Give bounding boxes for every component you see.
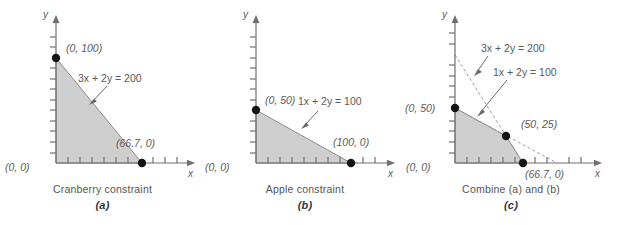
y-axis-label-c: y (441, 9, 448, 20)
x-axis-label-b: x (387, 168, 394, 179)
vertex-label-c-50-25: (50, 25) (521, 118, 557, 130)
panel-a: x y (0, 100) (66.7, 0) (0, 0) 3x + 2y = … (0, 0, 205, 225)
panel-b: x y (0, 50) (100, 0) (0, 0) 1x + 2y = 10… (205, 0, 405, 225)
panel-c-letter: (c) (405, 199, 617, 211)
vertex-point-66-7-0 (138, 159, 146, 167)
y-axis-arrow-a (53, 15, 60, 23)
vertex-point-0-50 (252, 106, 260, 114)
x-axis-label-a: x (187, 168, 194, 179)
equation-label-a-1: 3x + 2y = 200 (78, 72, 142, 84)
y-axis-arrow-b (253, 15, 260, 23)
feasible-region-c (455, 108, 523, 163)
equation-label-b-1: 1x + 2y = 100 (298, 95, 362, 107)
vertex-point-0-100 (52, 54, 60, 62)
x-axis-label-c: x (594, 168, 601, 179)
panel-c-caption: Combine (a) and (b) (405, 183, 617, 195)
equation-label-c-2: 1x + 2y = 100 (493, 66, 557, 78)
vertex-point-100-0 (347, 159, 355, 167)
vertex-label-0-100: (0, 100) (66, 42, 102, 54)
x-axis-arrow-b (387, 160, 395, 166)
y-axis-arrow-c (452, 15, 459, 23)
vertex-label-c-66-7-0: (66.7, 0) (525, 168, 564, 180)
vertex-point-c-50-25 (502, 132, 510, 140)
x-axis-arrow-c (594, 160, 602, 166)
vertex-label-100-0: (100, 0) (333, 136, 369, 148)
panel-a-letter: (a) (0, 199, 205, 211)
equation-arrow-c-1 (474, 56, 488, 76)
panel-b-plot: x y (0, 50) (100, 0) (0, 0) 1x + 2y = 10… (205, 0, 405, 182)
y-axis-label-a: y (42, 9, 49, 20)
origin-label-c: (0, 0) (406, 161, 431, 173)
y-ticks-b (250, 37, 256, 153)
equation-arrow-c-2 (477, 80, 507, 117)
vertex-point-c-0-50 (451, 104, 459, 112)
panel-a-caption: Cranberry constraint (0, 183, 205, 195)
panel-c-plot: x y (0, 50) (50, 25) (66.7, 0) (0, 0) 3x… (405, 0, 617, 182)
equation-arrow-b (301, 111, 318, 129)
origin-label-a: (0, 0) (5, 161, 30, 173)
x-axis-arrow-a (187, 160, 195, 166)
panel-c: x y (0, 50) (50, 25) (66.7, 0) (0, 0) 3x… (405, 0, 617, 225)
y-axis-label-b: y (242, 9, 249, 20)
linear-programming-figure: x y (0, 100) (66.7, 0) (0, 0) 3x + 2y = … (0, 0, 617, 225)
panel-b-caption: Apple constraint (205, 183, 405, 195)
y-ticks-c (449, 33, 455, 153)
vertex-label-c-0-50: (0, 50) (405, 102, 435, 114)
panel-a-plot: x y (0, 100) (66.7, 0) (0, 0) 3x + 2y = … (0, 0, 205, 182)
vertex-label-66-7-0: (66.7, 0) (116, 137, 155, 149)
origin-label-b: (0, 0) (205, 161, 230, 173)
equation-label-c-1: 3x + 2y = 200 (481, 42, 545, 54)
vertex-point-c-66-7-0 (519, 159, 527, 167)
vertex-label-0-50: (0, 50) (265, 94, 295, 106)
panel-b-letter: (b) (205, 199, 405, 211)
equation-arrow-a (89, 86, 107, 105)
